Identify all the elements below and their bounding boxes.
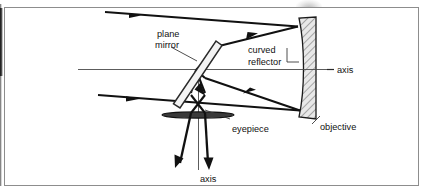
axis-right-label: axis — [337, 65, 354, 75]
axis-bottom-label: axis — [200, 174, 217, 184]
objective-mirror — [299, 17, 316, 119]
eyepiece-lens — [162, 112, 234, 118]
curved-reflector-label-line2: reflector — [248, 57, 281, 67]
screenshot-root: axis axis — [0, 0, 425, 191]
plane-mirror — [174, 41, 223, 108]
objective-label: objective — [320, 122, 356, 132]
eyepiece-exit-rays — [180, 113, 208, 163]
upper-incident-ray — [105, 12, 298, 27]
plane-mirror-label-line2: mirror — [155, 40, 179, 50]
eyepiece-exit-right-arrowhead — [204, 158, 214, 171]
eyepiece-label: eyepiece — [232, 124, 269, 134]
curved-reflector-label-line1: curved — [248, 45, 276, 55]
plane-mirror-label-line1: plane — [157, 29, 179, 39]
ray-diagram: axis axis — [0, 0, 425, 191]
